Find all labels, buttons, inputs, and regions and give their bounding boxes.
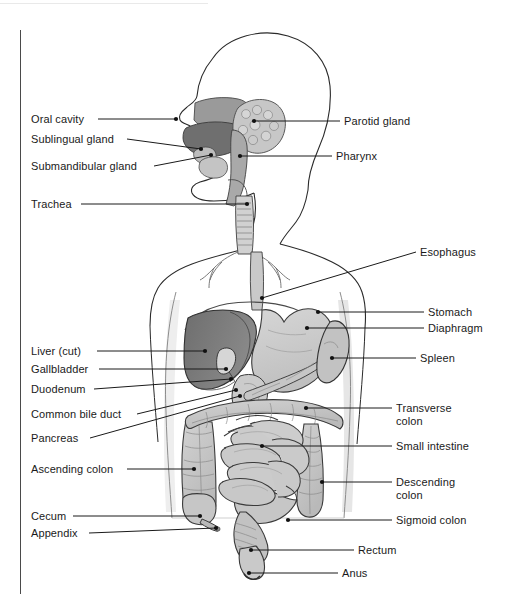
cecum-shape bbox=[183, 494, 216, 525]
label-appendix: Appendix bbox=[31, 527, 78, 540]
arm-right-inner bbox=[357, 328, 365, 444]
label-oral-cavity: Oral cavity bbox=[31, 113, 84, 126]
label-parotid-gland: Parotid gland bbox=[344, 115, 410, 128]
bronchus-left bbox=[200, 252, 238, 288]
label-anus: Anus bbox=[342, 567, 367, 580]
label-trachea: Trachea bbox=[31, 198, 72, 211]
digestive-system-figure: Oral cavitySublingual glandSubmandibular… bbox=[0, 0, 512, 597]
submandibular-gland-shape bbox=[199, 157, 228, 178]
label-duodenum: Duodenum bbox=[31, 383, 86, 396]
dot-pharynx bbox=[238, 154, 242, 158]
dot-transverse bbox=[304, 406, 308, 410]
dot-anus bbox=[247, 571, 251, 575]
label-cecum: Cecum bbox=[31, 510, 66, 523]
dot-rectum bbox=[249, 548, 253, 552]
anatomy-illustration bbox=[0, 0, 512, 597]
label-ascending-colon: Ascending colon bbox=[31, 463, 113, 476]
label-common-bile-duct: Common bile duct bbox=[31, 408, 121, 421]
head-internal-organs bbox=[183, 98, 285, 224]
dot-cecum bbox=[198, 514, 202, 518]
label-spleen: Spleen bbox=[420, 352, 455, 365]
dot-trachea bbox=[245, 202, 249, 206]
dot-bile-duct bbox=[234, 388, 238, 392]
esophagus-shape bbox=[250, 252, 263, 310]
leader-line-esophagus bbox=[262, 252, 416, 298]
dot-liver bbox=[203, 349, 207, 353]
label-rectum: Rectum bbox=[358, 544, 397, 557]
label-descending-colon: Descending colon bbox=[396, 476, 455, 502]
dot-sigmoid bbox=[286, 518, 290, 522]
dot-parotid bbox=[252, 119, 256, 123]
leader-line-appendix bbox=[89, 528, 216, 533]
dot-gallbladder bbox=[224, 367, 228, 371]
label-small-intestine: Small intestine bbox=[396, 440, 469, 453]
neck-back bbox=[280, 190, 308, 244]
dot-submandibular bbox=[209, 153, 213, 157]
label-diaphragm: Diaphragm bbox=[428, 322, 483, 335]
small-intestine-shape bbox=[219, 416, 309, 506]
dot-ascending bbox=[192, 467, 196, 471]
label-submandibular-gland: Submandibular gland bbox=[31, 160, 137, 173]
dot-oral-cavity bbox=[174, 117, 178, 121]
label-liver-cut: Liver (cut) bbox=[31, 345, 81, 358]
dot-descending bbox=[320, 480, 324, 484]
dot-diaphragm bbox=[305, 326, 309, 330]
dot-spleen bbox=[330, 356, 334, 360]
label-stomach: Stomach bbox=[428, 306, 472, 319]
dot-sublingual bbox=[199, 147, 203, 151]
abdominal-organs bbox=[182, 302, 349, 579]
label-gallbladder: Gallbladder bbox=[31, 363, 88, 376]
dot-appendix bbox=[214, 526, 218, 530]
label-pharynx: Pharynx bbox=[336, 150, 377, 163]
label-pancreas: Pancreas bbox=[31, 432, 78, 445]
label-esophagus: Esophagus bbox=[420, 246, 476, 259]
label-sigmoid-colon: Sigmoid colon bbox=[396, 514, 466, 527]
dot-small-intestine bbox=[260, 444, 264, 448]
dot-pancreas bbox=[238, 394, 242, 398]
airway-and-esophagus bbox=[200, 196, 290, 310]
dot-stomach bbox=[316, 310, 320, 314]
label-transverse-colon: Transverse colon bbox=[396, 402, 452, 428]
label-sublingual-gland: Sublingual gland bbox=[31, 133, 114, 146]
dot-esophagus bbox=[260, 296, 264, 300]
dot-duodenum bbox=[229, 377, 233, 381]
